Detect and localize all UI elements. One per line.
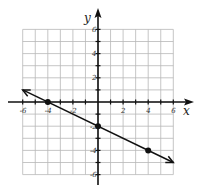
x-axis-label: x: [183, 104, 190, 118]
x-tick-label: -6: [20, 107, 27, 115]
x-tick-label: -4: [45, 107, 52, 115]
data-point: [45, 99, 51, 105]
data-point: [95, 123, 101, 129]
y-tick-label: 4: [91, 50, 96, 58]
y-tick-label: -4: [90, 147, 97, 155]
y-tick-label: 6: [92, 26, 97, 34]
x-tick-label: 2: [120, 107, 126, 115]
y-tick-label: -6: [90, 171, 97, 179]
data-point: [145, 147, 151, 153]
x-tick-label: 4: [145, 107, 150, 115]
x-tick-label: 6: [171, 107, 176, 115]
y-tick-label: 2: [91, 74, 97, 82]
y-axis-label: y: [83, 11, 91, 25]
coordinate-plane: -6-4-2246642-2-4-6 x y: [0, 0, 199, 190]
